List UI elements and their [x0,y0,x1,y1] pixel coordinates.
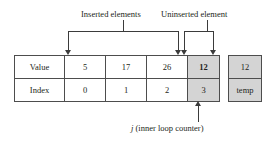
inserted-bracket-stem [123,20,124,31]
array-table: Value 5 17 26 12 Index 0 1 2 3 [14,55,220,102]
j-counter-label: j (inner loop counter) [131,123,203,133]
inserted-bracket-right-leg [178,31,179,50]
row-label-value: Value [15,56,65,79]
uninserted-element-label: Uninserted element [161,9,227,19]
index-cell-1: 1 [106,79,147,102]
value-cell-1: 17 [106,56,147,79]
temp-value-row: 12 [229,56,262,79]
value-cell-2: 26 [147,56,188,79]
table-row-index: Index 0 1 2 3 [15,79,220,102]
uninserted-bracket-stem [207,20,208,31]
j-counter-description: (inner loop counter) [133,123,203,133]
row-label-index: Index [15,79,65,102]
temp-value: 12 [229,56,262,79]
j-counter-arrow-icon [195,101,201,106]
index-cell-0: 0 [65,79,106,102]
uninserted-bracket-right-leg [213,31,214,50]
temp-variable-box: 12 temp [228,55,262,102]
value-cell-0: 5 [65,56,106,79]
insertion-sort-diagram: Inserted elements Uninserted element Val… [0,0,275,141]
inserted-elements-label: Inserted elements [81,9,141,19]
value-cell-3-highlighted: 12 [188,56,220,79]
j-counter-leader-line [198,106,199,122]
uninserted-bracket-bar [184,31,214,32]
inserted-bracket-bar [68,31,179,32]
table-row-value: Value 5 17 26 12 [15,56,220,79]
temp-label-row: temp [229,79,262,102]
index-cell-3-highlighted: 3 [188,79,220,102]
temp-label: temp [229,79,262,102]
uninserted-bracket-left-leg [184,31,185,50]
index-cell-2: 2 [147,79,188,102]
inserted-bracket-left-leg [68,31,69,50]
